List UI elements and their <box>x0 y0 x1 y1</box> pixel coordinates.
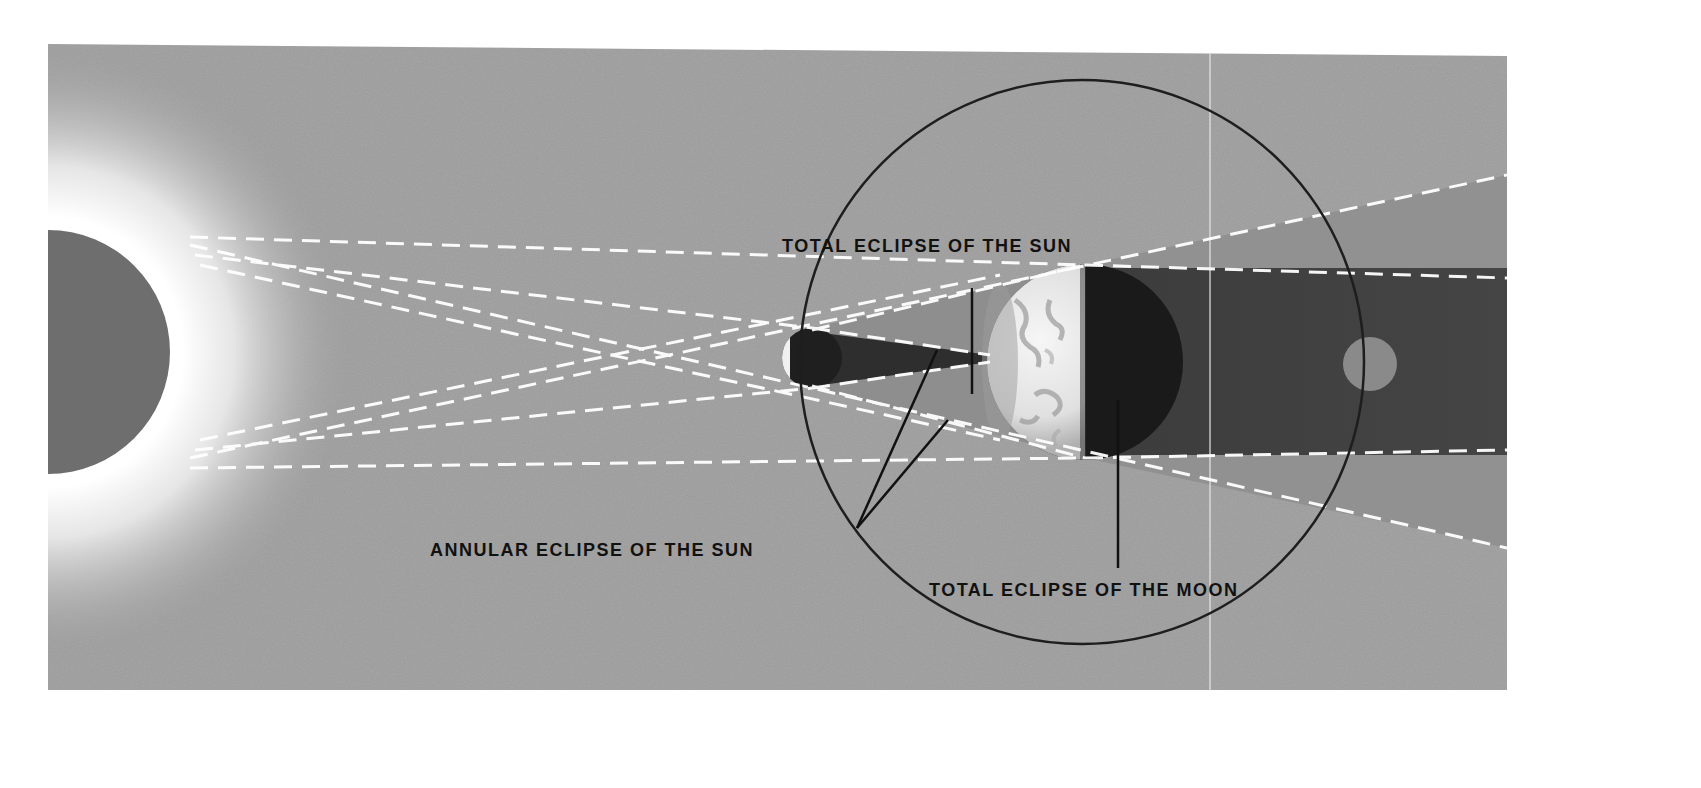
moon-in-earth-shadow <box>1343 337 1397 391</box>
moon-annular-position <box>782 328 842 388</box>
label-total-lunar-eclipse: TOTAL ECLIPSE OF THE MOON <box>929 580 1239 600</box>
eclipse-diagram: TOTAL ECLIPSE OF THE SUN ANNULAR ECLIPSE… <box>0 0 1701 788</box>
label-annular-solar-eclipse: ANNULAR ECLIPSE OF THE SUN <box>430 540 754 560</box>
label-total-solar-eclipse: TOTAL ECLIPSE OF THE SUN <box>782 236 1072 256</box>
